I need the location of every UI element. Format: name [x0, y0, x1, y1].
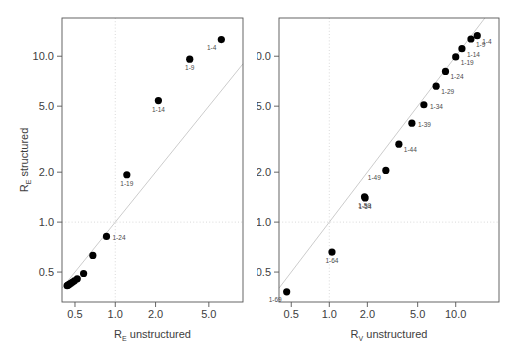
data-point	[420, 101, 427, 108]
data-point-label: 1-9	[185, 64, 195, 71]
data-point	[442, 68, 449, 75]
y-axis-tick-label: 5.0	[39, 100, 54, 112]
y-axis-label: RE structured	[18, 128, 32, 193]
data-point	[395, 141, 402, 148]
data-point	[474, 32, 481, 39]
data-point	[361, 193, 368, 200]
data-point-label: 1-19	[461, 59, 474, 66]
y-axis-tick-label: 5.0	[257, 100, 271, 112]
x-axis-tick-label: 0.5	[67, 308, 82, 320]
data-point-label: 1-24	[112, 234, 125, 241]
data-point-label: 1-19	[120, 180, 133, 187]
data-point-label: 1-69	[269, 296, 282, 303]
data-point	[433, 83, 440, 90]
data-point-label: 1-59	[358, 202, 371, 209]
data-point	[408, 120, 415, 127]
x-axis-tick-label: 5.0	[201, 308, 216, 320]
data-point	[186, 56, 193, 63]
data-point	[123, 171, 130, 178]
data-point	[80, 270, 87, 277]
data-point	[103, 233, 110, 240]
x-axis-label: RV unstructured	[351, 328, 428, 342]
x-axis-tick-label: 0.5	[284, 308, 299, 320]
data-point-label: 1-64	[325, 257, 338, 264]
data-point-label: 1-39	[418, 121, 431, 128]
x-axis-tick-label: 1.0	[108, 308, 123, 320]
x-axis-label: RE unstructured	[114, 328, 191, 342]
plot-frame	[62, 18, 243, 302]
identity-reference-line	[62, 64, 243, 288]
data-point-label: 1-49	[368, 174, 381, 181]
data-point	[155, 97, 162, 104]
x-axis-tick-label: 1.0	[322, 308, 337, 320]
data-point-label: 1-4	[207, 44, 217, 51]
figure-root: 0.51.02.05.00.51.02.05.010.0RE unstructu…	[0, 0, 514, 364]
y-axis-tick-label: 2.0	[39, 166, 54, 178]
data-point	[64, 282, 71, 289]
scatter-plot-left: 0.51.02.05.00.51.02.05.010.0RE unstructu…	[0, 0, 257, 364]
scatter-panel-right: 0.51.02.05.010.00.51.02.05.010.0RV unstr…	[257, 0, 514, 364]
x-axis-tick-label: 5.0	[410, 308, 425, 320]
y-axis-tick-label: 1.0	[257, 216, 271, 228]
x-axis-tick-label: 2.0	[148, 308, 163, 320]
scatter-panel-left: 0.51.02.05.00.51.02.05.010.0RE unstructu…	[0, 0, 257, 364]
data-point	[382, 167, 389, 174]
x-axis-tick-label: 2.0	[360, 308, 375, 320]
data-point-label: 1-24	[450, 73, 463, 80]
data-point	[452, 53, 459, 60]
y-axis-tick-label: 10.0	[33, 50, 54, 62]
data-point	[328, 248, 335, 255]
scatter-plot-right: 0.51.02.05.010.00.51.02.05.010.0RV unstr…	[257, 0, 514, 364]
y-axis-tick-label: 10.0	[257, 50, 271, 62]
y-axis-tick-label: 0.5	[39, 266, 54, 278]
data-point	[218, 36, 225, 43]
data-point	[458, 45, 465, 52]
data-point-label: 1-14	[467, 51, 480, 58]
data-point	[283, 288, 290, 295]
y-axis-tick-label: 2.0	[257, 166, 271, 178]
data-point	[89, 252, 96, 259]
data-point-label: 1-9	[476, 41, 486, 48]
y-axis-tick-label: 0.5	[257, 266, 271, 278]
data-point-label: 1-34	[430, 103, 443, 110]
data-point-label: 1-44	[404, 146, 417, 153]
data-point	[467, 35, 474, 42]
data-point-label: 1-14	[152, 106, 165, 113]
y-axis-tick-label: 1.0	[39, 216, 54, 228]
data-point-label: 1-29	[441, 88, 454, 95]
x-axis-tick-label: 10.0	[445, 308, 466, 320]
